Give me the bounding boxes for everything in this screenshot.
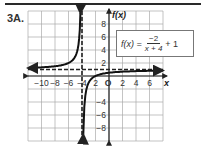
- y-axis-label: f(x): [112, 10, 126, 20]
- x-axis-label: x: [163, 78, 170, 88]
- y-tick-label: 6: [101, 32, 106, 42]
- y-tick-label: −6: [96, 110, 106, 120]
- y-tick-label: 8: [101, 19, 106, 29]
- x-tick-label: −6: [64, 78, 74, 88]
- y-tick-label: −4: [96, 97, 106, 107]
- x-tick-label: O: [105, 78, 112, 88]
- equation-denominator: x + 4: [145, 44, 163, 53]
- x-tick-label: 2: [93, 78, 98, 88]
- function-graph: −10−8−6−42O2468642−4−6−8xf(x): [0, 0, 201, 146]
- y-tick-label: 2: [101, 58, 106, 68]
- x-tick-label: −4: [77, 78, 87, 88]
- x-tick-label: 4: [134, 78, 139, 88]
- x-tick-label: −10: [34, 78, 49, 88]
- left-branch-curve: [28, 13, 80, 68]
- equation-numerator: −2: [147, 34, 160, 44]
- equation-lhs: f(x) =: [121, 39, 142, 49]
- x-tick-label: 2: [120, 78, 125, 88]
- equation-tail: + 1: [165, 39, 178, 49]
- y-tick-label: 4: [101, 45, 106, 55]
- equation-fraction: −2 x + 4: [145, 34, 163, 53]
- x-tick-label: 6: [147, 78, 152, 88]
- x-tick-label: −8: [50, 78, 60, 88]
- y-tick-label: −8: [96, 123, 106, 133]
- equation-box: f(x) = −2 x + 4 + 1: [116, 30, 194, 57]
